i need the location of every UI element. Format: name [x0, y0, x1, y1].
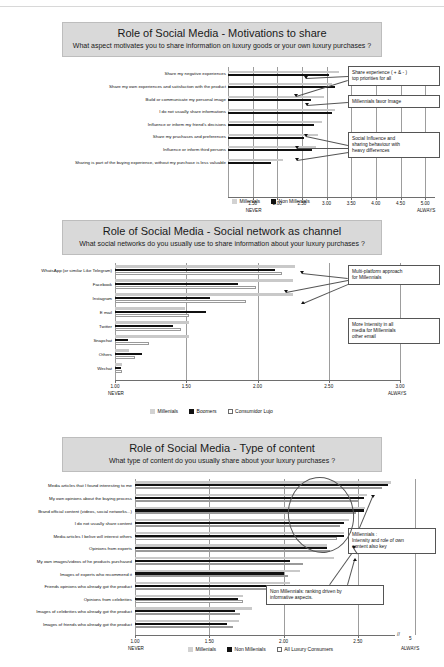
bar-gray	[115, 321, 189, 323]
legend-label: Consumidor Lujo	[235, 408, 273, 414]
category-label: Images of friends who already got the pr…	[43, 621, 132, 626]
annotation-callout: More Intensity in all media for Millenni…	[348, 318, 440, 344]
axis-tick	[329, 380, 330, 383]
axis-tick-label: 4.50	[396, 201, 405, 206]
chart-panel-social-network: Role of Social Media - Social network as…	[0, 220, 444, 405]
bar-black	[115, 367, 121, 369]
bar-white	[115, 342, 149, 344]
annotation-arrow-icon	[284, 290, 288, 293]
bar-gray	[135, 620, 239, 622]
bar-gray	[135, 595, 243, 597]
annotation-callout: Multi-platform approach for Millennials	[348, 265, 440, 285]
bar-gray	[228, 83, 332, 85]
annotation-arrow-icon	[353, 558, 357, 561]
axis-tick	[425, 197, 426, 200]
axis-tick-label: 3.00	[396, 384, 405, 389]
axis-tick	[400, 380, 401, 383]
bar-white	[135, 563, 303, 565]
legend-item: Millenials	[188, 646, 216, 652]
bar-white	[135, 550, 330, 552]
bar-white	[115, 356, 135, 358]
category-label: Images of celebrities who already got th…	[36, 609, 132, 614]
legend-swatch-icon	[228, 409, 233, 414]
legend-label: All Luxury Consumers	[284, 646, 333, 652]
bar-gray	[115, 265, 295, 267]
axis-low-label: NEVER	[246, 208, 262, 213]
axis-high-label: ALWAYS	[401, 646, 419, 651]
legend-swatch-icon	[150, 409, 155, 414]
axis-tick-label: 3.00	[322, 201, 331, 206]
legend-swatch-icon	[271, 199, 276, 204]
category-label: Wechat	[97, 366, 112, 371]
gridline	[358, 479, 359, 635]
bar-white	[115, 370, 122, 372]
plot-right-frame	[415, 479, 416, 635]
bar-white	[135, 588, 282, 590]
legend-swatch-icon	[277, 647, 282, 652]
bar-black	[135, 598, 238, 600]
category-label: Others	[99, 352, 112, 357]
chart-banner: Role of Social Media - Social network as…	[62, 220, 382, 255]
bar-gray	[135, 607, 252, 609]
annotation-callout: Non Millennials: ranking driven by infor…	[266, 585, 384, 605]
chart-subtitle: What social networks do you usually use …	[65, 239, 379, 249]
axis-tick-label: 1.50	[205, 639, 214, 644]
category-label: Media articles I belive will interest ot…	[53, 533, 132, 538]
axis-tick	[376, 197, 377, 200]
bar-black	[135, 610, 235, 612]
legend-label: Non Millenials	[235, 646, 266, 652]
bar-gray	[115, 363, 122, 365]
annotation-arrow-icon	[301, 301, 305, 304]
bar-gray	[135, 544, 327, 546]
bar-white	[115, 314, 189, 316]
annotation-callout: Social Influence and sharing behaviour w…	[348, 132, 440, 158]
annotation-arrow-icon	[371, 495, 375, 498]
axis-tick-label: 1.00	[111, 384, 120, 389]
bar-white	[115, 300, 246, 302]
bar-black	[115, 325, 173, 327]
category-label: Media articles that I found interesting …	[48, 483, 132, 488]
category-label: Opinions from celebrities	[84, 596, 132, 601]
bar-black	[115, 311, 206, 313]
chart-subtitle: What type of content do you usually shar…	[65, 456, 379, 466]
category-label: Instagram	[92, 296, 112, 301]
category-label: My own opinions about the buying process	[49, 495, 132, 500]
annotation-arrow-icon	[304, 134, 308, 137]
chart-legend: MillenialsBoomersConsumidor Lujo	[150, 408, 273, 414]
axis-low-label: NEVER	[108, 391, 124, 396]
category-label: Opinions from experts	[89, 546, 132, 551]
category-label: Share my pruchases and preferences	[153, 134, 226, 139]
annotation-callout: Share experience ( + & - ) top prioritie…	[348, 66, 440, 86]
bar-gray	[115, 293, 293, 295]
legend-swatch-icon	[227, 647, 232, 652]
bar-black	[228, 124, 314, 126]
legend-item: Consumidor Lujo	[228, 408, 273, 414]
bar-black	[135, 484, 388, 486]
leader-line	[297, 148, 348, 149]
bar-black	[228, 162, 271, 164]
chart-banner: Role of Social Media - Motivations to sh…	[62, 22, 382, 57]
bar-white	[115, 272, 282, 274]
bar-gray	[115, 307, 185, 309]
bar-gray	[228, 71, 339, 73]
chart-title: Role of Social Media - Motivations to sh…	[65, 27, 379, 40]
annotation-arrow-icon	[294, 94, 298, 97]
chart-title: Role of Social Media - Social network as…	[65, 225, 379, 238]
bar-black	[115, 339, 128, 341]
chart-plot-area: 1.001.502.002.50NEVERALWAYS5//Media arti…	[0, 472, 444, 647]
bar-white	[115, 328, 181, 330]
bar-white	[115, 286, 256, 288]
chart-title: Role of Social Media - Type of content	[65, 442, 379, 455]
bar-black	[228, 112, 332, 114]
axis-tick	[401, 197, 402, 200]
chart-banner: Role of Social Media - Type of content W…	[62, 437, 382, 472]
legend-label: Millenials	[196, 646, 217, 652]
bar-white	[135, 600, 243, 602]
axis-tick	[258, 380, 259, 383]
legend-swatch-icon	[188, 647, 193, 652]
axis-break-mark: //	[397, 631, 400, 637]
x-axis-line	[135, 635, 395, 636]
bar-gray	[115, 279, 293, 281]
axis-tick-label: 1.00	[131, 639, 140, 644]
bar-black	[115, 283, 238, 285]
